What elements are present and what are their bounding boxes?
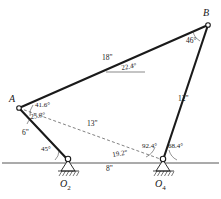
joint-B: [206, 23, 211, 28]
angle-arc-at-O2: [55, 151, 59, 160]
kinematic-diagram-figure: A B O2 O4 18" 46° 12" 6" 13" 8" 41.6° 25…: [0, 0, 221, 199]
dimension-label-rocker: 12": [178, 95, 189, 103]
dimension-label-diagonal: 13": [87, 120, 98, 128]
dimension-label-B-angle-proximity: 46°: [186, 37, 197, 45]
angle-arc-at-O4-right: [169, 150, 177, 160]
joint-A: [17, 106, 22, 111]
dimension-label-ground: 8": [106, 165, 113, 173]
point-label-A: A: [9, 94, 15, 104]
point-label-B: B: [203, 8, 209, 18]
rocker-link-B-O4: [163, 25, 208, 160]
angle-label-41-6: 41.6°: [35, 102, 50, 109]
ground-hatching-O4: [154, 171, 174, 176]
point-label-O4-subscript: 4: [162, 184, 166, 192]
ground-hatching-O2: [59, 171, 79, 176]
angle-label-45: 45°: [41, 146, 51, 153]
point-label-O2-subscript: 2: [67, 184, 71, 192]
joint-O2: [65, 156, 70, 161]
point-label-O2: O2: [60, 179, 71, 192]
angle-label-68-4: 68.4°: [168, 143, 183, 150]
dimension-label-coupler: 18": [102, 54, 113, 62]
dimension-label-crank: 6": [22, 129, 29, 137]
angle-label-92-4: 92.4°: [142, 143, 157, 150]
joint-O4: [160, 156, 165, 161]
point-label-O4: O4: [155, 179, 166, 192]
